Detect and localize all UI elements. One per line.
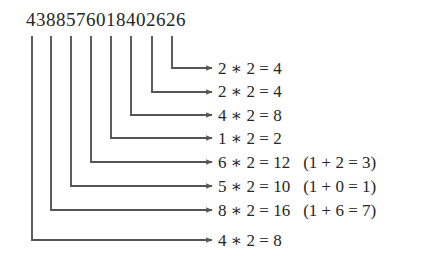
- connector-to-row-2: [152, 36, 212, 92]
- equation-main: 8 ∗ 2 = 16: [218, 201, 290, 220]
- equation-row: 6 ∗ 2 = 12(1 + 2 = 3): [218, 154, 376, 171]
- equation-main: 1 ∗ 2 = 2: [218, 129, 282, 148]
- equation-row: 2 ∗ 2 = 4: [218, 83, 295, 100]
- equation-main: 4 ∗ 2 = 8: [218, 106, 282, 125]
- equation-main: 6 ∗ 2 = 12: [218, 153, 290, 172]
- equation-note: (1 + 2 = 3): [303, 153, 376, 172]
- connector-to-row-6: [71, 36, 212, 186]
- diagram-canvas: 4388576018402626 2 ∗ 2 = 4 2 ∗ 2 = 4 4 ∗…: [0, 0, 447, 267]
- equation-note: (1 + 6 = 7): [303, 201, 376, 220]
- equation-row: 2 ∗ 2 = 4: [218, 60, 295, 77]
- equation-row: 5 ∗ 2 = 10(1 + 0 = 1): [218, 178, 376, 195]
- equation-row: 4 ∗ 2 = 8: [218, 232, 295, 249]
- equation-row: 8 ∗ 2 = 16(1 + 6 = 7): [218, 202, 376, 219]
- connector-paths: [32, 36, 212, 240]
- connector-to-row-4: [111, 36, 212, 138]
- equation-main: 2 ∗ 2 = 4: [218, 82, 282, 101]
- equation-row: 1 ∗ 2 = 2: [218, 130, 295, 147]
- equation-row: 4 ∗ 2 = 8: [218, 107, 295, 124]
- equation-main: 5 ∗ 2 = 10: [218, 177, 290, 196]
- equation-note: (1 + 0 = 1): [303, 177, 376, 196]
- equation-main: 2 ∗ 2 = 4: [218, 59, 282, 78]
- equation-main: 4 ∗ 2 = 8: [218, 231, 282, 250]
- connector-to-row-1: [172, 36, 212, 68]
